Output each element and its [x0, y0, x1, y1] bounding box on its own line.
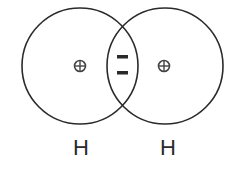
left-nucleus-plus-icon — [75, 61, 86, 72]
h2-bond-diagram: H H — [0, 0, 231, 171]
shared-electron-2-minus-icon — [117, 71, 128, 75]
right-nucleus-plus-icon — [159, 61, 170, 72]
shared-electron-1-minus-icon — [117, 55, 128, 59]
left-atom-label: H — [73, 135, 89, 160]
right-atom-label: H — [160, 135, 176, 160]
